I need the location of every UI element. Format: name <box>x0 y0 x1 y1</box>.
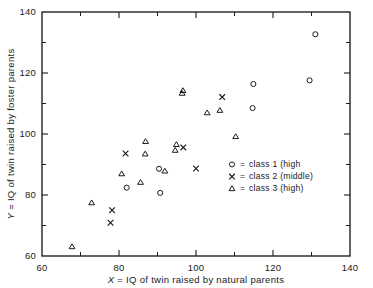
y-axis-tick-labels: 6080100120140 <box>20 6 36 261</box>
data-point <box>109 207 115 213</box>
data-point <box>156 166 161 171</box>
legend-marker-triangle-icon <box>229 186 235 191</box>
x-tick-label: 120 <box>265 262 281 273</box>
legend-entry-3: =class 3 (high) <box>229 183 304 193</box>
data-point <box>158 190 163 195</box>
data-point <box>108 220 114 226</box>
data-point <box>162 168 168 173</box>
x-tick-label: 140 <box>342 262 358 273</box>
legend-equals: = <box>240 171 245 181</box>
data-point <box>180 145 186 151</box>
x-tick-label: 100 <box>188 262 204 273</box>
data-point <box>124 185 129 190</box>
plot-svg: 6080100120140 6080100120140 =class 1 (hi… <box>0 0 373 288</box>
series-2 <box>108 94 225 225</box>
data-point <box>251 81 256 86</box>
legend-equals: = <box>240 159 245 169</box>
data-point <box>143 139 149 144</box>
legend-marker-circle-icon <box>229 162 234 167</box>
data-point <box>219 94 225 100</box>
legend: =class 1 (high=class 2 (middle)=class 3 … <box>229 159 313 193</box>
data-point <box>138 180 144 185</box>
data-point <box>172 147 178 152</box>
data-point <box>204 110 210 115</box>
y-tick-label: 140 <box>20 6 36 17</box>
data-point <box>142 151 148 156</box>
y-tick-label: 60 <box>25 250 36 261</box>
y-tick-label: 120 <box>20 67 36 78</box>
data-point <box>119 171 125 176</box>
data-point <box>217 108 223 113</box>
x-axis-title: X = IQ of twin raised by natural parents <box>107 274 285 285</box>
data-point <box>123 151 129 157</box>
y-tick-label: 100 <box>20 128 36 139</box>
data-point <box>233 134 239 139</box>
plot-frame <box>42 12 350 256</box>
x-tick-label: 80 <box>114 262 125 273</box>
series-3 <box>69 88 238 249</box>
legend-equals: = <box>240 183 245 193</box>
legend-entry-2: =class 2 (middle) <box>229 171 313 181</box>
y-tick-label: 80 <box>25 189 36 200</box>
x-tick-label: 60 <box>37 262 48 273</box>
y-axis-title: Y = IQ of twin raised by foster parents <box>5 49 16 220</box>
legend-entry-1: =class 1 (high <box>229 159 300 169</box>
x-axis-tick-labels: 6080100120140 <box>37 262 359 273</box>
legend-label: class 1 (high <box>249 159 301 169</box>
scatter-plot-figure: 6080100120140 6080100120140 =class 1 (hi… <box>0 0 373 288</box>
legend-label: class 3 (high) <box>249 183 304 193</box>
data-markers <box>69 32 318 249</box>
data-point <box>193 166 199 172</box>
data-point <box>313 32 318 37</box>
data-point <box>307 78 312 83</box>
legend-marker-x-icon <box>229 174 235 180</box>
data-point <box>89 200 95 205</box>
axis-ticks <box>42 12 350 256</box>
legend-label: class 2 (middle) <box>249 171 313 181</box>
data-point <box>173 142 179 147</box>
data-point <box>250 106 255 111</box>
data-point <box>69 244 75 249</box>
